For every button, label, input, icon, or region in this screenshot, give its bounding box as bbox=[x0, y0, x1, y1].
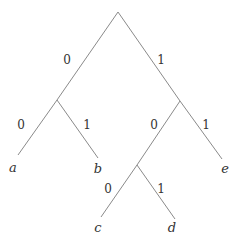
edge-n10-d bbox=[137, 165, 175, 219]
leaf-label-e: e bbox=[221, 161, 229, 176]
edge-n1-e bbox=[180, 101, 222, 159]
edge-labels: 01010101 bbox=[17, 53, 210, 196]
edge-label: 1 bbox=[83, 118, 91, 132]
tree-diagram: 01010101 abcde bbox=[0, 0, 243, 242]
edge-label: 1 bbox=[202, 118, 210, 132]
edge-label: 0 bbox=[150, 118, 158, 132]
edge-label: 0 bbox=[17, 118, 25, 132]
edge-n1-n10 bbox=[137, 101, 180, 165]
edge-label: 0 bbox=[63, 53, 71, 67]
edge-label: 0 bbox=[104, 182, 112, 196]
leaf-label-a: a bbox=[9, 160, 17, 175]
edge-label: 1 bbox=[157, 53, 165, 67]
edge-root-n1 bbox=[118, 12, 180, 101]
leaf-labels: abcde bbox=[9, 160, 229, 235]
leaf-label-c: c bbox=[94, 220, 102, 235]
edge-n0-b bbox=[57, 100, 98, 158]
edge-label: 1 bbox=[157, 182, 165, 196]
leaf-label-d: d bbox=[168, 220, 176, 235]
leaf-label-b: b bbox=[94, 161, 102, 176]
tree-edges bbox=[18, 12, 222, 219]
